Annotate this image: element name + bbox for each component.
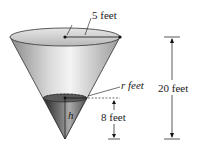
water-radius-label: r feet	[121, 79, 145, 91]
water-height-var-label: h	[68, 109, 74, 121]
top-radius-label: 5 feet	[92, 9, 117, 21]
total-height-label: 20 feet	[158, 82, 188, 94]
water-height-label: 8 feet	[101, 111, 126, 123]
cone-diagram: 5 feet r feet h 8 feet 20 feet	[0, 0, 197, 151]
